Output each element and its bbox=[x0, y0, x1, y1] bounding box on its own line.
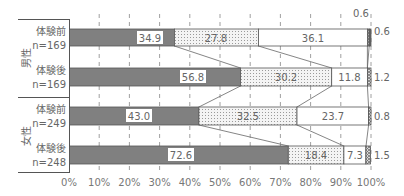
svg-text:30%: 30% bbox=[148, 177, 170, 188]
row-n: n=249 bbox=[32, 118, 66, 129]
svg-text:70%: 70% bbox=[269, 177, 291, 188]
bar-row-male-after bbox=[70, 68, 372, 86]
connector-lines bbox=[174, 46, 369, 146]
row-label: 体験前 bbox=[36, 25, 66, 37]
value-label-right: 0.8 bbox=[374, 111, 390, 122]
row-label: 体験後 bbox=[36, 142, 66, 154]
row-n: n=248 bbox=[32, 157, 66, 168]
value-label: 18.4 bbox=[305, 150, 327, 161]
svg-text:0%: 0% bbox=[61, 177, 77, 188]
svg-text:90%: 90% bbox=[330, 177, 352, 188]
svg-text:40%: 40% bbox=[179, 177, 201, 188]
group-label-male: 男性 bbox=[20, 48, 32, 68]
svg-text:100%: 100% bbox=[357, 177, 386, 188]
value-label: 43.0 bbox=[128, 111, 150, 122]
x-axis-ticks: 0% 10% 20% 30% 40% 50% 60% 70% 80% 90% 1… bbox=[61, 177, 385, 188]
value-label: 72.6 bbox=[170, 150, 192, 161]
value-label-right: 1.5 bbox=[374, 150, 390, 161]
svg-text:80%: 80% bbox=[299, 177, 321, 188]
value-label: 32.5 bbox=[237, 111, 259, 122]
row-n: n=169 bbox=[32, 79, 66, 90]
svg-text:10%: 10% bbox=[88, 177, 110, 188]
value-label-above: 0.6 bbox=[353, 8, 369, 19]
value-label: 11.8 bbox=[338, 72, 360, 83]
value-label: 23.7 bbox=[322, 111, 344, 122]
row-label: 体験前 bbox=[36, 103, 66, 115]
row-label: 体験後 bbox=[36, 64, 66, 76]
value-label: 34.9 bbox=[139, 33, 161, 44]
group-label-female: 女性 bbox=[20, 126, 32, 146]
value-label-right: 1.2 bbox=[374, 72, 390, 83]
svg-text:60%: 60% bbox=[239, 177, 261, 188]
stacked-bar-chart: 男性 女性 体験前 n=169 体験後 n=169 体験前 n=249 体験後 … bbox=[0, 0, 404, 196]
svg-text:20%: 20% bbox=[118, 177, 140, 188]
value-label: 36.1 bbox=[302, 33, 324, 44]
value-label: 30.2 bbox=[275, 72, 297, 83]
value-label: 56.8 bbox=[182, 72, 204, 83]
row-n: n=169 bbox=[32, 40, 66, 51]
svg-text:50%: 50% bbox=[209, 177, 231, 188]
value-label: 27.8 bbox=[205, 33, 227, 44]
value-label: 7.3 bbox=[347, 150, 363, 161]
value-label-right: 0.6 bbox=[374, 26, 390, 37]
